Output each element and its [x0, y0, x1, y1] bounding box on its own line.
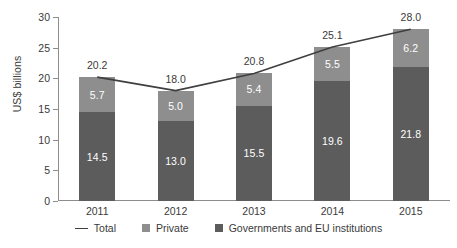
bar-segment-label: 21.8	[400, 128, 421, 140]
bar-segment-label: 15.5	[244, 147, 265, 159]
total-value-label: 20.8	[244, 55, 264, 67]
x-tick-label: 2015	[399, 205, 422, 217]
total-value-label: 20.2	[87, 59, 107, 71]
y-tick-label: 30	[38, 11, 50, 23]
legend-label: Total	[94, 222, 116, 234]
bar-segment-governments[interactable]: 21.8	[393, 67, 429, 201]
y-tick-label: 10	[38, 134, 50, 146]
y-tick-label: 0	[44, 195, 50, 207]
bar-segment-label: 14.5	[87, 151, 108, 163]
bar-segment-label: 5.5	[325, 58, 340, 70]
total-value-label: 25.1	[322, 29, 342, 41]
bar-segment-governments[interactable]: 14.5	[79, 112, 115, 201]
legend-item[interactable]: Private	[142, 222, 189, 234]
bar-group[interactable]: 15.55.4	[236, 17, 272, 201]
y-tick-label: 25	[38, 42, 50, 54]
bar-segment-governments[interactable]: 13.0	[158, 121, 194, 201]
x-tick-label: 2012	[164, 205, 187, 217]
legend-line-icon	[75, 228, 88, 229]
chart-legend: TotalPrivateGovernments and EU instituti…	[0, 222, 457, 234]
y-tick-mark	[53, 78, 58, 79]
bar-segment-private[interactable]: 6.2	[393, 29, 429, 67]
legend-swatch-icon	[142, 224, 150, 232]
y-axis-title: US$ billions	[11, 39, 23, 129]
legend-item[interactable]: Total	[75, 222, 116, 234]
y-tick-mark	[53, 201, 58, 202]
x-tick-label: 2013	[242, 205, 265, 217]
legend-label: Private	[156, 222, 189, 234]
legend-label: Governments and EU institutions	[229, 222, 383, 234]
bar-group[interactable]: 21.86.2	[393, 17, 429, 201]
bar-segment-governments[interactable]: 19.6	[314, 81, 350, 201]
bar-group[interactable]: 13.05.0	[158, 17, 194, 201]
bar-segment-private[interactable]: 5.7	[79, 77, 115, 112]
y-tick-label: 15	[38, 103, 50, 115]
legend-swatch-icon	[215, 224, 223, 232]
bar-segment-label: 5.0	[168, 100, 183, 112]
total-value-label: 28.0	[401, 11, 421, 23]
y-tick-mark	[53, 109, 58, 110]
legend-item[interactable]: Governments and EU institutions	[215, 222, 383, 234]
bar-segment-governments[interactable]: 15.5	[236, 106, 272, 201]
bar-segment-private[interactable]: 5.4	[236, 73, 272, 106]
bar-segment-label: 13.0	[165, 155, 186, 167]
bar-group[interactable]: 19.65.5	[314, 17, 350, 201]
y-tick-mark	[53, 48, 58, 49]
chart-container: US$ billions 051015202530 14.55.720.213.…	[0, 0, 457, 248]
bar-group[interactable]: 14.55.7	[79, 17, 115, 201]
plot-area: 051015202530 14.55.720.213.05.018.015.55…	[58, 17, 450, 201]
y-tick-label: 20	[38, 72, 50, 84]
bar-segment-private[interactable]: 5.0	[158, 91, 194, 122]
y-tick-mark	[53, 17, 58, 18]
x-tick-label: 2011	[86, 205, 109, 217]
total-value-label: 18.0	[165, 73, 185, 85]
bar-segment-label: 6.2	[403, 42, 418, 54]
y-tick-mark	[53, 140, 58, 141]
x-tick-label: 2014	[321, 205, 344, 217]
bar-segment-private[interactable]: 5.5	[314, 47, 350, 81]
y-axis-line	[58, 17, 59, 201]
y-tick-mark	[53, 170, 58, 171]
bar-segment-label: 5.7	[90, 89, 105, 101]
bar-segment-label: 5.4	[247, 83, 262, 95]
y-tick-label: 5	[44, 164, 50, 176]
bar-segment-label: 19.6	[322, 135, 343, 147]
